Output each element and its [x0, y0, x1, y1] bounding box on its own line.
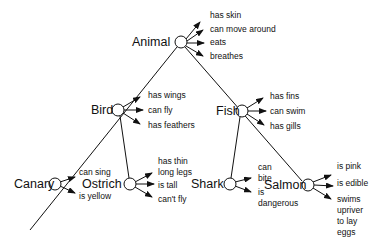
node-label-animal: Animal — [132, 35, 170, 49]
node-label-bird: Bird — [91, 103, 113, 117]
prop-canary-1: is yellow — [79, 191, 111, 202]
prop-bird-1: can fly — [148, 105, 173, 116]
arrow-canary-can-sing — [60, 177, 75, 182]
prop-fish-2: has gills — [270, 121, 301, 132]
node-label-ostrich: Ostrich — [82, 177, 122, 191]
prop-salmon-1: is edible — [337, 178, 368, 189]
node-circle-animal — [175, 36, 187, 48]
prop-salmon-2: swims upriver to lay eggs — [337, 194, 371, 238]
arrow-bird-has-wings — [123, 97, 140, 107]
prop-ostrich-0: has thin long legs — [158, 156, 194, 178]
arrow-fish-has-gills — [247, 114, 264, 125]
node-label-canary: Canary — [14, 177, 54, 191]
prop-fish-1: can swim — [270, 106, 305, 117]
prop-canary-0: can sing — [79, 167, 111, 178]
prop-fish-0: has fins — [270, 91, 299, 102]
node-circle-ostrich — [124, 178, 136, 190]
prop-animal-2: eats — [210, 37, 226, 48]
prop-shark-1: is dangerous — [258, 187, 278, 209]
edge-bird-ostrich — [120, 116, 129, 178]
prop-ostrich-1: is tall — [158, 180, 177, 191]
arrow-salmon-is-pink — [313, 175, 331, 182]
prop-bird-2: has feathers — [148, 120, 195, 131]
node-label-fish: Fish — [216, 104, 240, 118]
node-label-shark: Shark — [191, 177, 224, 191]
arrow-fish-has-fins — [247, 98, 263, 108]
node-circle-bird — [112, 104, 124, 116]
prop-animal-1: can move around — [210, 24, 276, 35]
prop-bird-0: has wings — [148, 90, 186, 101]
prop-salmon-0: is pink — [337, 161, 361, 172]
arrow-salmon-swims — [313, 188, 331, 199]
prop-shark-0: can bite — [258, 162, 278, 184]
arrow-salmon-is-edible — [314, 185, 333, 186]
prop-animal-3: breathes — [210, 51, 243, 62]
prop-ostrich-2: can't fly — [158, 194, 187, 205]
arrow-shark-is-dangerous — [235, 186, 251, 192]
node-circle-shark — [224, 178, 236, 190]
prop-animal-0: has skin — [210, 10, 241, 21]
arrow-ostrich-long-legs — [135, 173, 152, 182]
arrow-ostrich-cant-fly — [135, 187, 152, 197]
arrow-bird-has-feathers — [123, 113, 140, 124]
edge-fish-shark — [231, 117, 240, 178]
arrow-shark-can-bite — [235, 178, 251, 182]
edge-animal-bird — [30, 47, 177, 230]
